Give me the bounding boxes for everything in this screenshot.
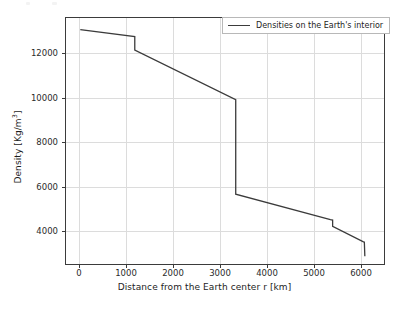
legend: Densities on the Earth's interior — [222, 17, 390, 34]
crop-artifact — [26, 2, 30, 5]
x-tick-label: 2000 — [162, 269, 184, 278]
y-axis-label-tail: ] — [13, 110, 23, 114]
crop-artifact — [52, 2, 57, 5]
legend-label: Densities on the Earth's interior — [256, 22, 383, 30]
x-tick-label: 6000 — [350, 269, 372, 278]
y-axis-label: Density [Kg/m3] — [11, 47, 23, 247]
legend-line-swatch — [228, 25, 250, 26]
y-tick-mark — [62, 187, 65, 188]
figure: Densities on the Earth's interior 4000 6… — [0, 0, 409, 311]
x-tick-label: 3000 — [209, 269, 231, 278]
x-tick-label: 4000 — [256, 269, 278, 278]
density-curve — [66, 18, 384, 264]
y-tick-mark — [62, 231, 65, 232]
y-tick-label: 12000 — [31, 49, 58, 58]
x-axis-label: Distance from the Earth center r [km] — [0, 282, 409, 292]
y-tick-label: 8000 — [36, 138, 58, 147]
y-tick-mark — [62, 53, 65, 54]
y-tick-label: 4000 — [36, 227, 58, 236]
x-tick-label: 0 — [76, 269, 81, 278]
y-tick-label: 6000 — [36, 183, 58, 192]
plot-area — [65, 17, 385, 265]
x-tick-label: 1000 — [115, 269, 137, 278]
y-axis-label-exponent: 3 — [11, 114, 19, 118]
x-tick-label: 5000 — [303, 269, 325, 278]
y-tick-mark — [62, 98, 65, 99]
y-axis-label-base: Density [Kg/m — [13, 118, 23, 183]
y-tick-label: 10000 — [31, 94, 58, 103]
y-tick-mark — [62, 142, 65, 143]
